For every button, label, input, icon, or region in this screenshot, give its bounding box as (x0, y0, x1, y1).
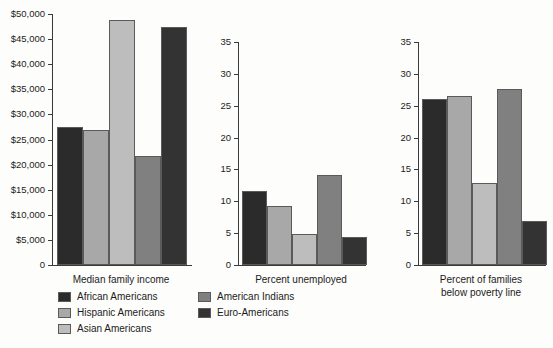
bar-percent-unemployed-1 (242, 191, 267, 265)
y-axis-tick (414, 265, 418, 266)
y-axis-tick-label: 25 (400, 101, 411, 111)
bar-chart-figure: 0$5,000$10,000$15,000$20,000$25,000$30,0… (0, 0, 553, 348)
legend-item: Hispanic Americans (58, 308, 165, 318)
y-axis-tick (48, 64, 52, 65)
y-axis-tick (234, 42, 238, 43)
y-axis-tick-label: 30 (400, 69, 411, 79)
bar-median-family-income-2 (83, 130, 109, 265)
legend-swatch-icon (58, 308, 71, 318)
y-axis-tick-label: 5 (406, 228, 411, 238)
y-axis-tick (48, 190, 52, 191)
y-axis-line (238, 42, 239, 266)
y-axis-tick-label: 30 (220, 69, 231, 79)
legend-swatch-icon (198, 308, 211, 318)
y-axis-tick-label: 15 (400, 164, 411, 174)
legend-item-label: American Indians (217, 292, 294, 302)
bar-percent-families-below-poverty-line-5 (522, 221, 547, 265)
y-axis-tick (414, 106, 418, 107)
y-axis-tick (234, 265, 238, 266)
legend-item-label: Asian Americans (77, 324, 151, 334)
y-axis-tick (234, 233, 238, 234)
y-axis-tick-label: 35 (400, 37, 411, 47)
x-axis-label-line-2: below poverty line (418, 287, 544, 300)
y-axis-tick-label: 25 (220, 101, 231, 111)
y-axis-tick (414, 42, 418, 43)
bar-percent-families-below-poverty-line-3 (472, 183, 497, 265)
bar-median-family-income-1 (57, 127, 83, 265)
x-axis-line (238, 265, 366, 266)
y-axis-tick (414, 74, 418, 75)
y-axis-tick-label: 15 (220, 164, 231, 174)
bar-median-family-income-5 (161, 27, 187, 265)
x-axis-label: Percent of familiesbelow poverty line (418, 274, 544, 299)
y-axis-tick (234, 138, 238, 139)
bar-percent-unemployed-2 (267, 206, 292, 265)
y-axis-tick-label: $25,000 (11, 135, 45, 145)
y-axis-tick-label: 10 (400, 196, 411, 206)
bar-median-family-income-4 (135, 156, 161, 265)
bar-percent-families-below-poverty-line-4 (497, 89, 522, 265)
bar-percent-families-below-poverty-line-1 (422, 99, 447, 265)
x-axis-line (418, 265, 546, 266)
y-axis-tick (414, 169, 418, 170)
y-axis-tick-label: 0 (406, 260, 411, 270)
y-axis-tick-label: 35 (220, 37, 231, 47)
bar-median-family-income-3 (109, 20, 135, 265)
y-axis-tick-label: $30,000 (11, 109, 45, 119)
x-axis-label-line-1: Percent of families (418, 274, 544, 287)
y-axis-tick-label: 5 (226, 228, 231, 238)
y-axis-tick-label: $20,000 (11, 160, 45, 170)
y-axis-tick-label: $10,000 (11, 210, 45, 220)
y-axis-tick (234, 169, 238, 170)
legend-swatch-icon (58, 324, 71, 334)
legend-swatch-icon (198, 292, 211, 302)
y-axis-tick-label: 20 (220, 133, 231, 143)
y-axis-tick (234, 74, 238, 75)
chart-panel-median-family-income: 0$5,000$10,000$15,000$20,000$25,000$30,0… (8, 0, 196, 290)
y-axis-tick (48, 39, 52, 40)
legend-item-label: African Americans (77, 292, 158, 302)
y-axis-tick (234, 106, 238, 107)
bar-percent-families-below-poverty-line-2 (447, 96, 472, 265)
legend-item-label: Hispanic Americans (77, 308, 165, 318)
y-axis-tick (414, 138, 418, 139)
x-axis-label: Median family income (52, 274, 190, 287)
x-axis-label: Percent unemployed (238, 274, 364, 287)
legend-item: American Indians (198, 292, 294, 302)
y-axis-tick-label: $5,000 (16, 235, 45, 245)
y-axis-tick (414, 201, 418, 202)
y-axis-tick (48, 240, 52, 241)
y-axis-tick-label: $15,000 (11, 185, 45, 195)
y-axis-tick (414, 233, 418, 234)
y-axis-tick (48, 14, 52, 15)
y-axis-tick-label: $35,000 (11, 84, 45, 94)
y-axis-tick-label: $50,000 (11, 9, 45, 19)
legend-item-label: Euro-Americans (217, 308, 289, 318)
y-axis-tick-label: 10 (220, 196, 231, 206)
y-axis-tick (48, 265, 52, 266)
y-axis-tick-label: 20 (400, 133, 411, 143)
bar-percent-unemployed-3 (292, 234, 317, 265)
legend-item: Euro-Americans (198, 308, 289, 318)
y-axis-tick (48, 165, 52, 166)
legend-item: Asian Americans (58, 324, 151, 334)
chart-panel-percent-families-below-poverty-line: 05101520253035Percent of familiesbelow p… (382, 0, 550, 290)
y-axis-tick (48, 114, 52, 115)
legend-item: African Americans (58, 292, 158, 302)
y-axis-tick (48, 89, 52, 90)
bar-percent-unemployed-4 (317, 175, 342, 265)
y-axis-tick-label: 0 (226, 260, 231, 270)
y-axis-tick-label: $40,000 (11, 59, 45, 69)
chart-panel-percent-unemployed: 05101520253035Percent unemployed (200, 0, 370, 290)
y-axis-tick (48, 140, 52, 141)
bar-percent-unemployed-5 (342, 237, 367, 265)
y-axis-tick-label: $45,000 (11, 34, 45, 44)
chart-legend: African AmericansHispanic AmericansAsian… (58, 292, 378, 342)
y-axis-tick-label: 0 (40, 260, 45, 270)
y-axis-line (52, 14, 53, 266)
x-axis-line (52, 265, 192, 266)
y-axis-line (418, 42, 419, 266)
y-axis-tick (234, 201, 238, 202)
y-axis-tick (48, 215, 52, 216)
legend-swatch-icon (58, 292, 71, 302)
